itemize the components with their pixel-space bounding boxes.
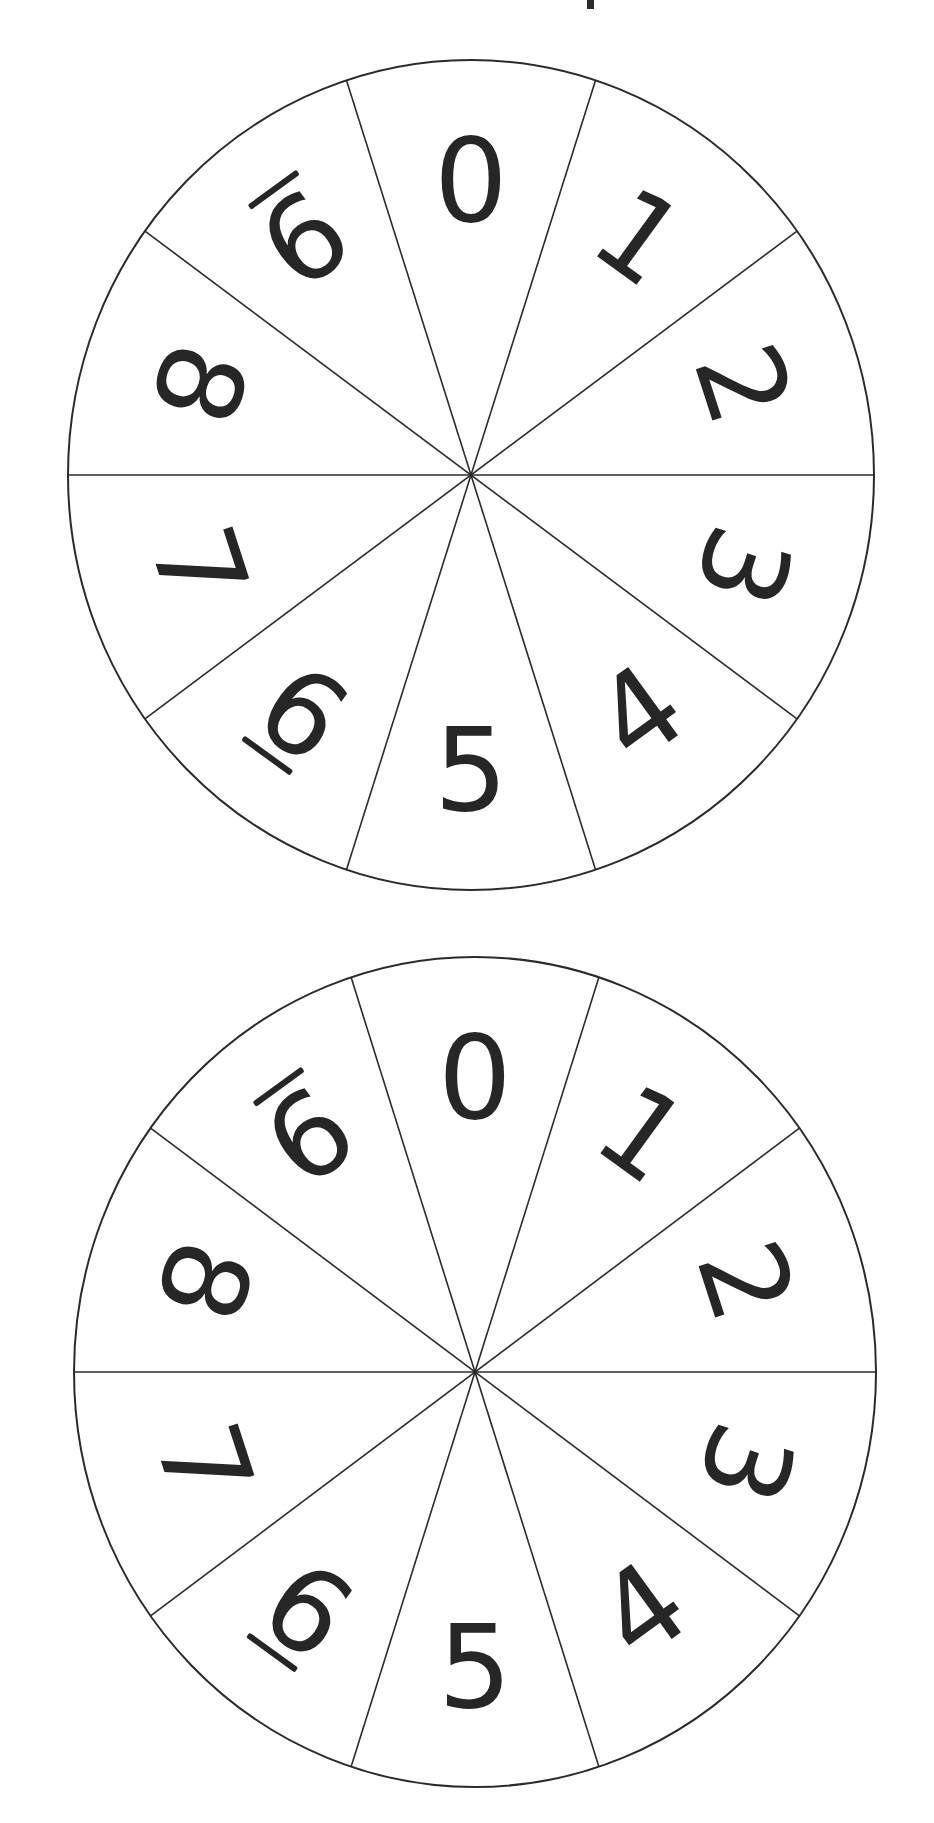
spinner-wheel-bottom: 0123456789 (0, 0, 934, 1823)
sector-number: 0 (438, 1010, 512, 1145)
sector-0: 0 (438, 1010, 512, 1145)
sector-5: 5 (438, 1599, 512, 1734)
spinner-sheet: 0123456789 0123456789 (0, 0, 934, 1823)
sector-number: 5 (438, 1599, 512, 1734)
